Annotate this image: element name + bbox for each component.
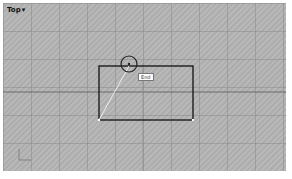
viewport-scene xyxy=(3,3,286,171)
osnap-point-icon xyxy=(128,63,130,65)
cplane-axes-icon xyxy=(19,149,31,160)
rubberband-line xyxy=(99,66,129,120)
osnap-tooltip: End xyxy=(138,73,154,81)
corner-point[interactable] xyxy=(98,119,100,121)
corner-point[interactable] xyxy=(192,119,194,121)
top-viewport[interactable]: Top▾ End xyxy=(3,3,286,171)
